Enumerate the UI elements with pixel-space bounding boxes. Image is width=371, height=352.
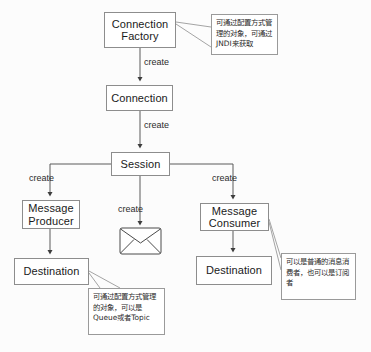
edge-label-session-consumer: create	[212, 173, 237, 183]
node-destination-left-label: Destination	[23, 265, 79, 277]
edge-session-producer	[50, 164, 111, 195]
edge-label-session-message: create	[118, 204, 143, 214]
node-destination-right[interactable]: Destination	[196, 256, 272, 285]
leader-note-destination-a	[89, 271, 120, 288]
node-message-consumer-label: Message Consumer	[209, 205, 261, 230]
leader-note-consumer-a	[269, 219, 281, 258]
node-connection-label: Connection	[111, 92, 168, 104]
node-message-producer[interactable]: Message Producer	[22, 200, 80, 229]
leader-note-factory-a	[176, 22, 211, 27]
node-destination-left[interactable]: Destination	[14, 258, 89, 285]
note-message-consumer-text: 可以是普通的消息消费者，也可以是订阅者	[286, 257, 349, 287]
node-message-consumer[interactable]: Message Consumer	[200, 203, 269, 231]
note-destination: 可通过配置方式管理的对象，可以是Queue或者Topic	[88, 288, 165, 335]
note-destination-text: 可通过配置方式管理的对象，可以是Queue或者Topic	[93, 292, 156, 322]
note-connection-factory: 可通过配置方式管理的对象，可通过JNDI来获取	[211, 14, 278, 55]
node-session[interactable]: Session	[111, 152, 170, 176]
node-connection[interactable]: Connection	[106, 85, 173, 111]
node-connection-factory[interactable]: Connection Factory	[104, 12, 176, 48]
leader-note-destination-b	[89, 273, 100, 288]
envelope-icon	[119, 227, 162, 255]
node-connection-factory-label: Connection Factory	[112, 18, 169, 43]
node-session-label: Session	[121, 158, 161, 170]
edge-label-session-producer: create	[29, 173, 54, 183]
note-connection-factory-text: 可通过配置方式管理的对象，可通过JNDI来获取	[216, 18, 272, 48]
note-message-consumer: 可以是普通的消息消费者，也可以是订阅者	[281, 253, 356, 300]
node-destination-right-label: Destination	[206, 264, 262, 276]
jms-flow-diagram: Connection Factory Connection Session Me…	[0, 0, 371, 352]
edge-label-factory-connection: create	[144, 57, 169, 67]
edge-label-connection-session: create	[144, 120, 169, 130]
leader-note-factory-b	[176, 24, 211, 47]
node-message-producer-label: Message Producer	[28, 202, 73, 227]
